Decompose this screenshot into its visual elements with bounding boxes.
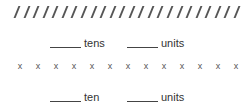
x-mark: x (214, 61, 222, 71)
slash-mark (167, 6, 173, 18)
units-answer-blank-2[interactable] (127, 101, 158, 102)
tens-answer-blank[interactable] (50, 47, 81, 48)
x-mark: x (142, 61, 150, 71)
slash-mark (33, 6, 39, 18)
slash-mark (234, 6, 240, 18)
tens-label: tens (84, 37, 105, 49)
units-label: units (161, 37, 184, 49)
tens-units-prompt-1: tens units (0, 35, 250, 49)
slash-mark (224, 6, 230, 18)
slash-mark (205, 6, 211, 18)
slash-mark (214, 6, 220, 18)
slash-tally-row (0, 3, 250, 21)
x-mark: x (124, 61, 132, 71)
slash-mark (157, 6, 163, 18)
x-mark: x (70, 61, 78, 71)
slash-mark (195, 6, 201, 18)
slash-mark (176, 6, 182, 18)
slash-mark (186, 6, 192, 18)
slash-mark (42, 6, 48, 18)
x-mark: x (88, 61, 96, 71)
slash-mark (128, 6, 134, 18)
x-mark: x (160, 61, 168, 71)
slash-mark (147, 6, 153, 18)
slash-mark (100, 6, 106, 18)
units-answer-blank[interactable] (127, 47, 158, 48)
slash-mark (71, 6, 77, 18)
ten-label: ten (84, 91, 99, 103)
x-mark: x (16, 61, 24, 71)
slash-mark (14, 6, 20, 18)
x-mark: x (232, 61, 240, 71)
x-mark: x (106, 61, 114, 71)
ten-answer-blank[interactable] (50, 101, 81, 102)
slash-mark (119, 6, 125, 18)
slash-mark (52, 6, 58, 18)
tens-units-prompt-2: ten units (0, 89, 250, 103)
slash-mark (109, 6, 115, 18)
units-label-2: units (161, 91, 184, 103)
x-tally-row: xxxxxxxxxxxxx (0, 60, 250, 74)
slash-mark (90, 6, 96, 18)
x-mark: x (178, 61, 186, 71)
x-mark: x (34, 61, 42, 71)
x-mark: x (196, 61, 204, 71)
slash-mark (138, 6, 144, 18)
slash-mark (61, 6, 67, 18)
slash-mark (81, 6, 87, 18)
slash-mark (23, 6, 29, 18)
x-mark: x (52, 61, 60, 71)
